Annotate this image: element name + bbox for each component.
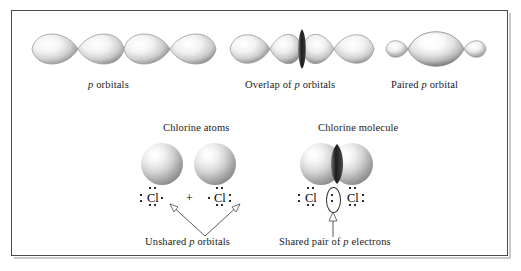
paired-p-orbital [384, 24, 488, 74]
caption-paired-p-orbital: Paired p orbital [391, 79, 458, 91]
caption-overlap-of-p-orbitals: Overlap of p orbitals [245, 79, 335, 91]
lewis-mol-atom-left: Cl [305, 192, 317, 205]
element-symbol-cl-mol-right: Cl [347, 191, 359, 205]
p-orbital-pair-right [122, 27, 218, 71]
annotation-unshared-p-orbitals: Unshared p orbitals [145, 236, 230, 248]
caption-p-rest: orbitals [93, 79, 128, 90]
lewis-mol-atom-right: Cl [347, 192, 359, 205]
lone-pair-top-2 [215, 187, 225, 190]
annotation-shared-post: electrons [349, 236, 391, 247]
lone-pair-left [140, 193, 143, 204]
caption-p-orbitals: p orbitals [88, 79, 129, 91]
mol-lone-pair-left [298, 193, 301, 204]
unshared-orbital-leaders [150, 196, 260, 238]
annotation-shared-pair: Shared pair of p electrons [279, 236, 391, 248]
mol-lone-pair-right [362, 193, 365, 204]
heading-chlorine-molecule: Chlorine molecule [318, 122, 398, 134]
mol-lone-pair-bottom-left [306, 204, 316, 207]
mol-lone-pair-top-left [306, 187, 316, 190]
figure-root: p orbitals Overlap of p orbitals Paired … [0, 0, 521, 271]
p-orbital-pair-left [30, 27, 126, 71]
lone-pair-top [148, 187, 158, 190]
caption-paired-post: orbital [427, 79, 458, 90]
chlorine-atom-sphere-left [141, 143, 183, 185]
chlorine-atom-sphere-right [194, 143, 236, 185]
overlapping-p-orbitals [228, 25, 376, 73]
element-symbol-cl-mol-left: Cl [305, 191, 317, 205]
caption-paired-pre: Paired [391, 79, 422, 90]
annotation-unshared-pre: Unshared [145, 236, 189, 247]
lewis-chlorine-molecule-right: Cl [347, 192, 359, 205]
mol-lone-pair-bottom-right [348, 204, 358, 207]
mol-lone-pair-top-right [348, 187, 358, 190]
lewis-chlorine-molecule-left: Cl [305, 192, 317, 205]
caption-overlap-pre: Overlap of [245, 79, 294, 90]
shared-pair-leader [327, 210, 341, 238]
annotation-unshared-post: orbitals [195, 236, 230, 247]
annotation-shared-pre: Shared pair of [279, 236, 343, 247]
heading-chlorine-atoms: Chlorine atoms [163, 122, 230, 134]
sphere-overlap-region [325, 143, 349, 185]
shared-electron-pair [331, 193, 335, 205]
caption-overlap-post: orbitals [300, 79, 335, 90]
